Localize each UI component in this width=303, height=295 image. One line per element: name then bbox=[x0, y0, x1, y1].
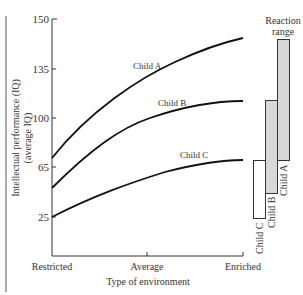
reaction-range-chart: 150 135 100 65 25 Restricted Average Enr… bbox=[0, 0, 303, 295]
reaction-bar-label-child-a: Child A bbox=[278, 164, 289, 196]
y-axis-label: Intellectual performance (IQ) bbox=[10, 79, 22, 197]
y-tick-label: 65 bbox=[38, 161, 50, 173]
y-tick-label: 100 bbox=[33, 112, 50, 124]
y-tick-label: 135 bbox=[33, 63, 50, 75]
series-child-c-line bbox=[52, 160, 243, 217]
series-label-child-b: Child B bbox=[158, 98, 186, 108]
y-tick-label: 150 bbox=[33, 13, 50, 25]
reaction-range-title-line2: range bbox=[272, 26, 295, 37]
y-axis-label-sub: (average IQ) bbox=[22, 113, 34, 164]
x-ticks: Restricted Average Enriched bbox=[32, 252, 261, 272]
y-tick-label: 25 bbox=[38, 211, 50, 223]
reaction-range-title: Reaction bbox=[265, 15, 301, 26]
reaction-bar-child-a bbox=[278, 40, 290, 161]
series-label-child-c: Child C bbox=[180, 150, 208, 160]
x-tick-label: Restricted bbox=[32, 261, 73, 272]
y-ticks: 150 135 100 65 25 bbox=[33, 13, 58, 223]
reaction-bar-child-c bbox=[254, 161, 266, 219]
x-tick-label: Average bbox=[130, 261, 164, 272]
x-tick-label: Enriched bbox=[225, 261, 261, 272]
reaction-bar-child-b bbox=[266, 101, 278, 194]
series-label-child-a: Child A bbox=[133, 61, 162, 71]
reaction-bar-label-child-b: Child B bbox=[266, 196, 277, 228]
reaction-bar-label-child-c: Child C bbox=[254, 222, 265, 254]
series-child-b-line bbox=[52, 101, 243, 188]
x-axis-label: Type of environment bbox=[106, 276, 190, 287]
series-child-a-line bbox=[52, 38, 243, 158]
